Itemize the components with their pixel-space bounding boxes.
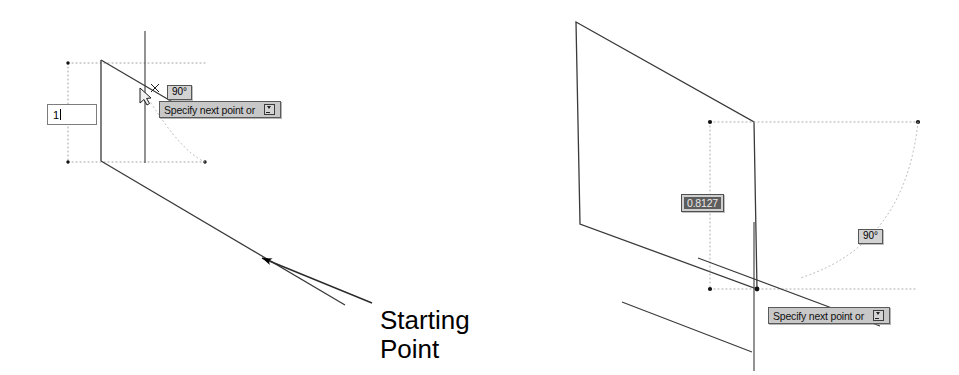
left-diagram-geometry (66, 31, 372, 305)
right-angle-chip[interactable]: 90° (858, 229, 883, 244)
left-upper-segment (101, 60, 176, 104)
starting-point-callout: Starting Point (380, 277, 470, 364)
right-tracking-lines (710, 122, 918, 289)
expand-options-icon[interactable] (264, 104, 275, 115)
right-prompt-label: Specify next point or (773, 310, 864, 322)
illustration-canvas: 1 90° Specify next point or Starting Poi… (0, 0, 959, 375)
right-snap-dots (708, 120, 920, 292)
length-input[interactable]: 1 (47, 104, 97, 125)
left-angle-chip[interactable]: 90° (167, 85, 192, 100)
distance-field[interactable]: 0.8127 (681, 194, 724, 212)
right-plane-outline (576, 22, 757, 289)
left-prompt-label: Specify next point or (164, 104, 255, 116)
right-guide-segment-lower (622, 302, 752, 352)
left-angle-value: 90° (172, 86, 187, 97)
expand-options-icon[interactable] (873, 310, 884, 321)
text-caret (60, 109, 61, 120)
right-angle-arc (800, 122, 918, 278)
length-input-value: 1 (53, 109, 59, 121)
leader-arrow-icon (262, 258, 372, 303)
distance-value: 0.8127 (684, 197, 721, 209)
crosshair-cursor-icon (140, 84, 159, 105)
left-diagonal-segment (101, 161, 345, 305)
starting-point-label: Starting Point (380, 305, 470, 364)
left-prompt-tooltip[interactable]: Specify next point or (159, 101, 281, 118)
right-angle-value: 90° (863, 230, 878, 241)
right-prompt-tooltip[interactable]: Specify next point or (768, 307, 890, 324)
